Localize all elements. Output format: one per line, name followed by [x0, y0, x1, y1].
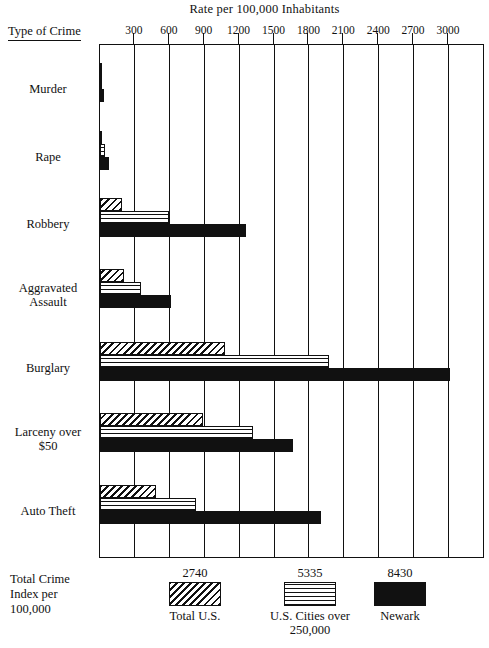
bar-larceny-over-50-u-s-cities-over-250-000 [100, 426, 253, 439]
gridline-1200 [239, 45, 240, 557]
bar-larceny-over-50-total-u-s- [100, 413, 203, 426]
bar-auto-theft-u-s-cities-over-250-000 [100, 498, 196, 511]
x-tick-2700 [412, 33, 413, 44]
x-tick-1200 [238, 33, 239, 44]
legend-row-label: Total CrimeIndex per100,000 [10, 572, 70, 617]
bar-larceny-over-50-newark [100, 439, 293, 452]
legend-row-label-line: Index per [10, 587, 70, 602]
category-label-line: Aggravated [0, 281, 96, 295]
category-label-line: Murder [0, 82, 96, 96]
bar-burglary-total-u-s- [100, 342, 225, 355]
x-axis-tick-labels: 3006009001200150018002100240027003000 [0, 24, 489, 40]
category-label-burglary: Burglary [0, 361, 96, 375]
legend-row-label-line: Total Crime [10, 572, 70, 587]
legend-swatch-cross-hatch [284, 582, 336, 606]
category-label-line: Assault [0, 295, 96, 309]
bar-murder-u-s-cities-over-250-000 [100, 76, 102, 89]
category-label-robbery: Robbery [0, 217, 96, 231]
bar-aggravated-assault-u-s-cities-over-250-000 [100, 282, 141, 295]
category-label-larceny-over-50: Larceny over$50 [0, 425, 96, 453]
gridline-2700 [413, 45, 414, 557]
x-tick-label-3000: 3000 [428, 24, 468, 36]
x-tick-2100 [342, 33, 343, 44]
category-label-line: Larceny over [0, 425, 96, 439]
legend-row-label-line: 100,000 [10, 602, 70, 617]
x-tick-2400 [377, 33, 378, 44]
legend-name-line: 250,000 [240, 623, 380, 637]
bar-murder-newark [100, 89, 104, 102]
gridline-2400 [378, 45, 379, 557]
bar-robbery-u-s-cities-over-250-000 [100, 211, 169, 224]
x-tick-300 [133, 33, 134, 44]
bar-rape-u-s-cities-over-250-000 [100, 144, 105, 157]
gridline-2100 [343, 45, 344, 557]
category-label-auto-theft: Auto Theft [0, 504, 96, 518]
category-label-line: Rape [0, 150, 96, 164]
gridline-1500 [274, 45, 275, 557]
bar-rape-newark [100, 157, 109, 170]
category-label-rape: Rape [0, 150, 96, 164]
plot-area [99, 44, 484, 558]
x-tick-3000 [447, 33, 448, 44]
bar-rape-total-u-s- [100, 131, 102, 144]
gridline-900 [204, 45, 205, 557]
category-label-line: Robbery [0, 217, 96, 231]
gridline-1800 [308, 45, 309, 557]
x-tick-600 [168, 33, 169, 44]
legend-value: 8430 [330, 566, 470, 580]
legend-name-line: Newark [330, 609, 470, 623]
category-label-murder: Murder [0, 82, 96, 96]
category-label-line: Auto Theft [0, 504, 96, 518]
crime-rate-bar-chart: Rate per 100,000 Inhabitants Type of Cri… [0, 0, 489, 648]
chart-title: Rate per 100,000 Inhabitants [0, 2, 489, 17]
legend-swatch-solid-black [374, 582, 426, 606]
chart-legend: Total CrimeIndex per100,000 2740Total U.… [0, 566, 489, 648]
bar-burglary-u-s-cities-over-250-000 [100, 355, 329, 368]
category-label-line: Burglary [0, 361, 96, 375]
x-tick-1800 [307, 33, 308, 44]
legend-item-newark: 8430Newark [330, 566, 470, 623]
x-tick-1500 [273, 33, 274, 44]
bar-auto-theft-newark [100, 511, 321, 524]
bar-burglary-newark [100, 368, 450, 381]
category-label-aggravated-assault: AggravatedAssault [0, 281, 96, 309]
legend-swatch-diagonal-hatch [169, 582, 221, 606]
gridline-3000 [448, 45, 449, 557]
bar-auto-theft-total-u-s- [100, 485, 156, 498]
bar-robbery-newark [100, 224, 246, 237]
bar-murder-total-u-s- [100, 63, 102, 76]
x-tick-900 [203, 33, 204, 44]
category-label-line: $50 [0, 439, 96, 453]
bar-aggravated-assault-newark [100, 295, 171, 308]
bar-aggravated-assault-total-u-s- [100, 269, 124, 282]
bar-robbery-total-u-s- [100, 198, 122, 211]
